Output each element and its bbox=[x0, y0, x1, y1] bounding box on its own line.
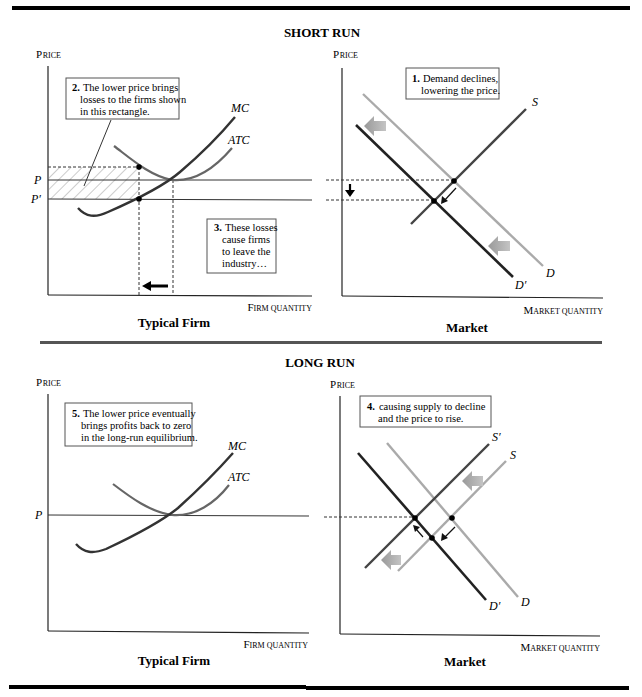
atc-label: ATC bbox=[227, 470, 251, 484]
demand-shift-arrow-upper bbox=[364, 116, 386, 136]
y-axis-label: PRICE bbox=[330, 378, 355, 390]
panel-title-typical-firm: Typical Firm bbox=[138, 653, 211, 668]
y-axis-label: PRICE bbox=[36, 376, 61, 388]
equilibrium-old bbox=[451, 178, 457, 184]
mc-curve bbox=[76, 453, 233, 552]
long-run-title: LONG RUN bbox=[285, 355, 355, 370]
svg-text:losses to the firms shown: losses to the firms shown bbox=[80, 94, 187, 105]
svg-text:to leave the: to leave the bbox=[222, 246, 271, 257]
demand-shift-arrow-lower bbox=[488, 236, 510, 256]
supply-shift-arrow-lower bbox=[381, 550, 401, 570]
x-axis bbox=[342, 296, 603, 298]
note-4-callout: 4.causing supply to decline and the pric… bbox=[360, 396, 491, 427]
panel-title-market: Market bbox=[446, 320, 489, 335]
supply-curve-s-prime bbox=[365, 444, 489, 568]
x-axis bbox=[48, 631, 309, 633]
equilibrium-new bbox=[431, 198, 437, 204]
top-rule bbox=[12, 6, 630, 10]
x-axis-label: FIRM QUANTITY bbox=[247, 301, 312, 313]
figure-canvas: SHORT RUN PRICE P P′ MC ATC 2.The bbox=[0, 0, 642, 697]
price-label-p-prime: P′ bbox=[30, 192, 41, 206]
y-axis-label: PRICE bbox=[333, 48, 358, 60]
loss-rectangle bbox=[49, 167, 139, 199]
price-decrease-arrowhead bbox=[345, 190, 355, 197]
supply-label-s: S bbox=[510, 448, 516, 462]
short-run-market-panel: PRICE S D D′ 1.Demand declines, loweri bbox=[326, 48, 603, 335]
x-axis-label: MARKET QUANTITY bbox=[520, 641, 600, 653]
movement-arrow-up-head bbox=[413, 525, 420, 532]
note-1-callout: 1.Demand declines, lowering the price. bbox=[406, 68, 500, 99]
point-mc-at-p-prime bbox=[136, 196, 142, 202]
demand-label-d-prime: D′ bbox=[488, 599, 501, 613]
note-5-callout: 5.The lower price eventually brings prof… bbox=[65, 403, 198, 446]
supply-curve-s bbox=[411, 109, 526, 224]
svg-text:5.The lower price eventually: 5.The lower price eventually bbox=[72, 408, 196, 419]
long-run-firm-panel: PRICE P MC ATC 5.The lower price eventua… bbox=[34, 376, 309, 668]
note-2-callout: 2.The lower price brings losses to the f… bbox=[66, 78, 187, 119]
long-run-market-panel: PRICE S′ S D D′ 4.causing supply to decl… bbox=[324, 378, 600, 669]
equilibrium-long-run bbox=[412, 515, 418, 521]
equilibrium-short-run bbox=[429, 535, 435, 541]
mc-label: MC bbox=[230, 101, 250, 115]
demand-curve-d-prime bbox=[358, 453, 486, 600]
price-line-p-prime bbox=[48, 199, 312, 200]
short-run-title: SHORT RUN bbox=[284, 25, 361, 40]
x-axis bbox=[48, 295, 312, 296]
panel-title-market: Market bbox=[444, 654, 487, 669]
section-separator bbox=[40, 341, 602, 344]
x-axis bbox=[340, 634, 600, 636]
price-label-p: P bbox=[34, 508, 43, 522]
mc-label: MC bbox=[227, 439, 247, 453]
panel-title-typical-firm: Typical Firm bbox=[138, 315, 211, 330]
x-axis-label: MARKET QUANTITY bbox=[523, 304, 603, 316]
note-3-callout: 3.These losses cause firms to leave the … bbox=[207, 219, 278, 273]
supply-label-s: S bbox=[532, 95, 538, 109]
demand-label-d: D bbox=[545, 266, 555, 280]
svg-text:and the price to rise.: and the price to rise. bbox=[378, 413, 463, 424]
svg-text:brings profits back to zero: brings profits back to zero bbox=[81, 420, 191, 431]
svg-text:1.Demand declines,: 1.Demand declines, bbox=[412, 73, 498, 84]
price-label-p: P bbox=[33, 173, 42, 187]
svg-text:4.causing supply to decline: 4.causing supply to decline bbox=[367, 401, 486, 412]
svg-text:cause firms: cause firms bbox=[222, 234, 270, 245]
svg-text:in the long-run equilibrium.: in the long-run equilibrium. bbox=[81, 432, 198, 443]
atc-curve bbox=[113, 484, 229, 515]
svg-text:lowering the price.: lowering the price. bbox=[421, 85, 500, 96]
bottom-rule-right bbox=[306, 686, 629, 690]
supply-label-s-prime: S′ bbox=[492, 430, 501, 444]
short-run-firm-panel: PRICE P P′ MC ATC 2.The lower price brin… bbox=[30, 48, 312, 330]
x-axis-label: FIRM QUANTITY bbox=[243, 638, 308, 650]
atc-label: ATC bbox=[227, 133, 251, 147]
demand-label-d-prime: D′ bbox=[514, 278, 527, 292]
movement-arrow-down bbox=[445, 527, 455, 537]
point-atc-at-new-q bbox=[136, 164, 142, 170]
bottom-rule bbox=[9, 685, 306, 689]
svg-text:industry…: industry… bbox=[222, 258, 267, 269]
quantity-decrease-arrowhead bbox=[142, 281, 151, 291]
y-axis-label: PRICE bbox=[36, 48, 61, 60]
svg-text:in this rectangle.: in this rectangle. bbox=[80, 106, 150, 117]
equilibrium-original bbox=[449, 515, 455, 521]
svg-text:2.The lower price brings: 2.The lower price brings bbox=[72, 82, 178, 93]
movement-arrow-down-head bbox=[441, 533, 448, 541]
demand-label-d: D bbox=[520, 595, 530, 609]
movement-arrow-up bbox=[416, 529, 423, 537]
